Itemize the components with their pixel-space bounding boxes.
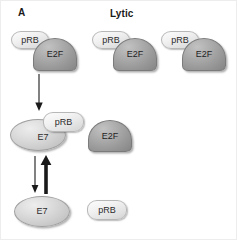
prb-label: pRB [171, 36, 189, 45]
e7-label: E7 [37, 133, 48, 142]
free-e2f-shape: E2F [88, 120, 132, 152]
prb-label: pRB [102, 36, 120, 45]
free-prb-shape: pRB [87, 200, 127, 220]
free-e7-shape: E7 [14, 196, 70, 227]
prb-shape: pRB [43, 112, 84, 132]
panel-label: A [18, 7, 25, 18]
e2f-label: E2F [47, 50, 64, 59]
e2f-label: E2F [102, 132, 119, 141]
e7-binding-arrow [30, 74, 48, 112]
e2f-shape: E2F [113, 38, 157, 71]
e2f-label: E2F [127, 50, 144, 59]
e7-label: E7 [36, 207, 47, 216]
prb-label: pRB [21, 36, 39, 45]
e2f-shape: E2F [33, 38, 77, 71]
prb-label: pRB [55, 118, 73, 127]
prb-label: pRB [98, 206, 116, 215]
association-arrow [39, 154, 55, 194]
e2f-label: E2F [196, 50, 213, 59]
page-title: Lytic [110, 8, 133, 19]
e2f-shape: E2F [182, 38, 226, 71]
lytic-pathway-figure: A Lytic pRB E2F pRB E2F pRB E2F [0, 0, 237, 240]
